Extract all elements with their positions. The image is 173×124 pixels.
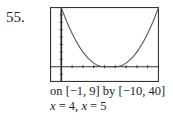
problem-number: 55. <box>6 9 25 26</box>
solution-1: = 4, <box>56 99 82 113</box>
graph-window <box>50 7 159 82</box>
solution-2: = 5 <box>87 99 107 113</box>
solutions-caption: x = 4, x = 5 <box>50 99 107 114</box>
window-caption: on [−1, 9] by [−10, 40] <box>50 84 165 99</box>
